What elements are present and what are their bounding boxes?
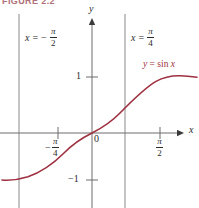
fraction-pi-over-2-tick: π 2 <box>156 137 163 158</box>
fraction-pi-over-4-right: π 4 <box>147 27 154 48</box>
label-left-sign: − <box>41 33 47 43</box>
y-tick-label-1: 1 <box>76 71 81 81</box>
label-x-equals-pi-over-4: x = π 4 <box>131 27 154 48</box>
x-tick-neg-sign: − <box>45 143 51 153</box>
label-right-var: x <box>131 33 135 43</box>
label-right-eq: = <box>138 33 144 43</box>
label-left-eq: = <box>32 33 38 43</box>
fraction-pi-over-4-tick: π 4 <box>52 137 59 158</box>
fraction-denominator: 4 <box>52 149 59 158</box>
y-axis-label: y <box>89 4 93 14</box>
curve-label-y: y <box>143 59 147 69</box>
fraction-denominator: 2 <box>50 39 57 48</box>
fraction-numerator: π <box>50 27 57 36</box>
fraction-denominator: 4 <box>147 39 154 48</box>
fraction-numerator: π <box>52 137 59 146</box>
label-left-var: x <box>25 33 29 43</box>
label-x-equals-neg-pi-over-2: x = − π 2 <box>25 27 57 48</box>
curve-label-y-equals-sin-x: y = sin x <box>143 60 175 70</box>
fraction-numerator: π <box>147 27 154 36</box>
curve-label-eq: = <box>150 59 155 69</box>
y-tick-label-neg-1: −1 <box>68 174 79 184</box>
x-axis-label: x <box>189 125 193 135</box>
sine-curve <box>2 76 197 180</box>
fraction-pi-over-2-left: π 2 <box>50 27 57 48</box>
x-tick-label-neg-pi-over-4: − π 4 <box>45 137 59 158</box>
origin-label: 0 <box>94 134 99 144</box>
fraction-denominator: 2 <box>156 149 163 158</box>
x-tick-label-pi-over-2: π 2 <box>156 137 163 158</box>
fraction-numerator: π <box>156 137 163 146</box>
curve-label-fn: sin <box>157 59 168 69</box>
curve-label-arg: x <box>171 59 175 69</box>
figure-container: FIGURE 2.2 x = − π <box>0 0 199 208</box>
